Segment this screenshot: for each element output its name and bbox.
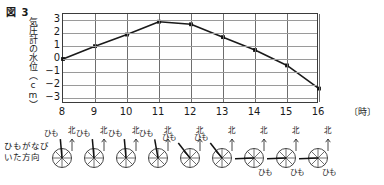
y-tick-2: 2 bbox=[54, 27, 60, 37]
gridline-horizontal bbox=[63, 20, 317, 21]
x-tick-9: 9 bbox=[91, 106, 97, 118]
gridline-vertical bbox=[319, 14, 320, 102]
string-line bbox=[267, 158, 286, 159]
string-line bbox=[299, 158, 318, 159]
string-line bbox=[60, 139, 62, 158]
y-tick--2: −2 bbox=[45, 79, 60, 89]
y-tick--3: −3 bbox=[45, 92, 60, 102]
figure-container: 図 3 気圧計の水位（cm） 3210−1−2−3 89101112131415… bbox=[0, 0, 384, 185]
string-line bbox=[210, 143, 222, 158]
string-line bbox=[178, 143, 190, 158]
x-axis-unit-label: 〔時〕 bbox=[349, 106, 376, 118]
string-line bbox=[235, 158, 254, 159]
string-label: ひも bbox=[76, 130, 90, 138]
string-label: ひも bbox=[108, 130, 122, 138]
gridline-horizontal bbox=[63, 85, 317, 86]
string-label: ひも bbox=[44, 130, 58, 138]
gridline-vertical bbox=[287, 14, 288, 102]
y-tick-0: 0 bbox=[54, 53, 60, 63]
x-tick-10: 10 bbox=[120, 106, 133, 118]
x-axis-tick-labels: 8910111213141516 bbox=[62, 106, 318, 120]
y-tick-1: 1 bbox=[54, 40, 60, 50]
gridline-vertical bbox=[223, 14, 224, 102]
x-tick-8: 8 bbox=[59, 106, 65, 118]
gridline-vertical bbox=[95, 14, 96, 102]
gridline-vertical bbox=[191, 14, 192, 102]
gridline-horizontal bbox=[63, 33, 317, 34]
string-line bbox=[124, 139, 126, 158]
gridline-horizontal bbox=[63, 46, 317, 47]
string-label: ひも bbox=[162, 134, 176, 142]
wind-vane-row: 北ひも北ひも北ひも北ひも北ひも北ひも北ひも北ひも北ひも bbox=[62, 120, 318, 182]
string-label: ひも bbox=[194, 134, 208, 142]
gridline-horizontal bbox=[63, 72, 317, 73]
string-label: ひも bbox=[139, 130, 153, 138]
y-axis-label: 気圧計の水位（cm） bbox=[24, 15, 38, 111]
y-axis-tick-labels: 3210−1−2−3 bbox=[38, 13, 60, 103]
north-label: 北 bbox=[324, 127, 331, 135]
x-tick-15: 15 bbox=[280, 106, 293, 118]
plot-area bbox=[62, 13, 318, 103]
string-label: ひも bbox=[322, 169, 336, 177]
x-tick-14: 14 bbox=[248, 106, 261, 118]
string-line bbox=[92, 139, 94, 158]
gridline-vertical bbox=[255, 14, 256, 102]
gridline-vertical bbox=[159, 14, 160, 102]
y-tick-3: 3 bbox=[54, 14, 60, 24]
gridline-horizontal bbox=[63, 98, 317, 99]
gridline-horizontal bbox=[63, 59, 317, 60]
x-tick-12: 12 bbox=[184, 106, 197, 118]
x-tick-13: 13 bbox=[216, 106, 229, 118]
y-tick--1: −1 bbox=[45, 66, 60, 76]
wind-vane-16: 北ひも bbox=[296, 120, 340, 182]
x-tick-11: 11 bbox=[152, 106, 165, 118]
gridline-vertical bbox=[127, 14, 128, 102]
x-tick-16: 16 bbox=[312, 106, 325, 118]
